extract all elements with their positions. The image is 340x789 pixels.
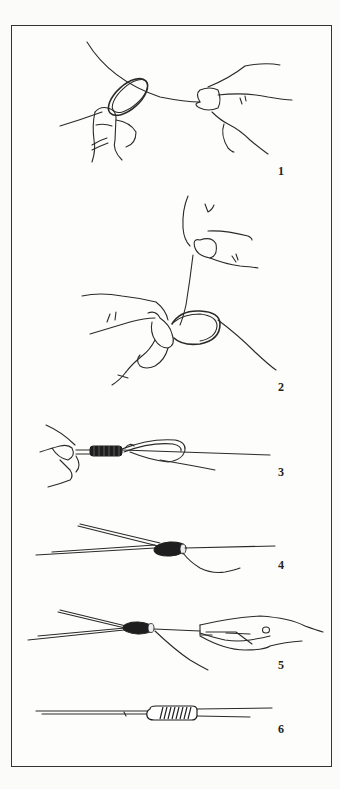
step-number-4: 4 <box>278 559 284 571</box>
step-number-3: 3 <box>278 466 284 478</box>
step-number-5: 5 <box>278 659 284 671</box>
step-number-1: 1 <box>278 165 284 177</box>
step-4-drawing <box>36 524 275 573</box>
step-3-drawing <box>40 425 270 487</box>
step-6-drawing <box>36 706 272 720</box>
step-number-2: 2 <box>278 381 284 393</box>
knot-tying-illustration <box>0 0 340 789</box>
step-2-drawing <box>82 196 276 385</box>
step-1-drawing <box>60 42 292 162</box>
step-number-6: 6 <box>278 723 284 735</box>
